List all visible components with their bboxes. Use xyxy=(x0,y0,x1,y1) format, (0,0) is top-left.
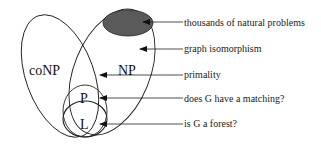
label-np: NP xyxy=(118,63,136,79)
annotation-graph-isomorphism: graph isomorphism xyxy=(184,43,262,55)
annotation-primality: primality xyxy=(184,69,221,81)
annotation-thousands: thousands of natural problems xyxy=(184,17,305,29)
label-p: P xyxy=(80,91,88,107)
label-conp: coNP xyxy=(29,63,60,79)
label-l: L xyxy=(80,117,89,133)
annotation-forest: is G a forest? xyxy=(184,118,237,130)
annotation-matching: does G have a matching? xyxy=(184,93,285,105)
np-complete-shaded-region xyxy=(103,10,153,36)
